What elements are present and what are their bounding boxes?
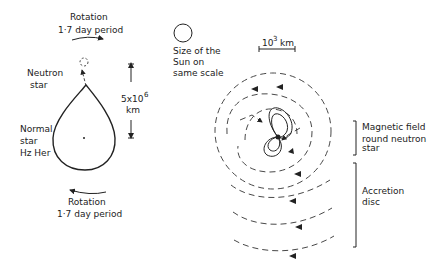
svg-text:km: km: [280, 38, 294, 48]
svg-text:star: star: [362, 143, 380, 153]
rotation-top-arrow-icon: [72, 37, 103, 40]
magnetic-field-bracket: Magnetic field round neutron star: [353, 121, 426, 155]
svg-text:Rotation: Rotation: [68, 197, 106, 207]
svg-text:Neutron: Neutron: [27, 68, 63, 78]
svg-text:Normal: Normal: [20, 124, 53, 134]
rotation-bottom-arrow-icon: [70, 190, 106, 194]
svg-text:Hz Her: Hz Her: [20, 148, 51, 158]
rotation-bottom-label: Rotation 1·7 day period: [57, 197, 122, 219]
magnetic-field-lobes: [264, 108, 292, 157]
svg-text:6: 6: [144, 91, 149, 99]
accretion-flow-lines: [215, 73, 334, 251]
neutron-star-core: [276, 135, 281, 140]
svg-text:Rotation: Rotation: [70, 12, 108, 22]
svg-text:same scale: same scale: [173, 68, 224, 78]
normal-star-label: Normal star Hz Her: [20, 124, 53, 158]
sun-reference-label: Size of the Sun on same scale: [173, 46, 224, 78]
neutron-star-icon: [80, 58, 88, 66]
accretion-disc-bracket: Accretion disc: [353, 163, 404, 247]
normal-star-center-dot: [83, 137, 85, 139]
neutron-star-label: Neutron star: [27, 68, 63, 90]
normal-star-roche-lobe: [53, 85, 115, 170]
svg-text:1·7 day period: 1·7 day period: [58, 25, 123, 35]
svg-text:5x10: 5x10: [121, 94, 144, 104]
svg-text:3: 3: [273, 35, 277, 43]
binary-star-diagram: Rotation 1·7 day period Neutron star Nor…: [0, 0, 445, 269]
km-scale-bar: 10 3 km: [259, 35, 295, 52]
svg-text:star: star: [20, 136, 38, 146]
mass-transfer-stream: [82, 70, 86, 86]
svg-text:1·7 day period: 1·7 day period: [57, 209, 122, 219]
svg-text:Accretion: Accretion: [362, 186, 404, 196]
flow-arrow-icons: [251, 84, 302, 259]
svg-text:disc: disc: [362, 197, 380, 207]
svg-text:Sun on: Sun on: [173, 57, 204, 67]
rotation-top-label: Rotation 1·7 day period: [58, 12, 123, 35]
svg-text:Magnetic field: Magnetic field: [362, 122, 426, 132]
svg-text:star: star: [30, 80, 48, 90]
svg-text:Size of the: Size of the: [173, 46, 221, 56]
svg-text:km: km: [126, 105, 140, 115]
distance-scale: 5x10 6 km: [121, 62, 149, 139]
sun-size-reference-icon: [174, 24, 192, 42]
svg-text:10: 10: [262, 38, 274, 48]
